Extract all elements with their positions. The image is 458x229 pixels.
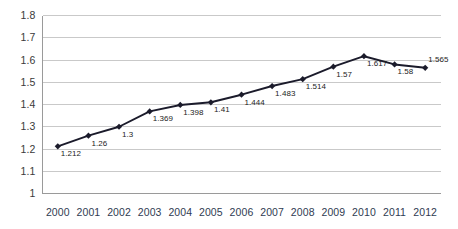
y-tick-label: 1.6: [21, 55, 36, 66]
data-point-marker: [300, 76, 306, 82]
data-point-marker: [330, 64, 336, 70]
data-point-label: 1.57: [336, 71, 352, 79]
data-point-label: 1.483: [275, 90, 295, 98]
chart-canvas: [0, 0, 458, 229]
y-tick-label: 1.4: [21, 99, 36, 110]
data-point-label: 1.617: [367, 60, 387, 68]
data-point-marker: [147, 108, 153, 114]
y-tick-label: 1.5: [21, 77, 36, 88]
data-point-label: 1.41: [214, 106, 230, 114]
data-point-label: 1.3: [122, 131, 133, 139]
y-tick-label: 1.8: [21, 10, 36, 21]
data-point-label: 1.58: [398, 68, 414, 76]
series-line: [58, 56, 425, 146]
data-point-label: 1.565: [428, 56, 448, 64]
data-point-marker: [238, 92, 244, 98]
data-point-marker: [116, 124, 122, 130]
x-tick-label: 2012: [405, 207, 445, 218]
gridlines: [43, 16, 441, 194]
data-point-label: 1.26: [91, 140, 107, 148]
y-tick-label: 1: [30, 188, 36, 199]
data-point-label: 1.444: [245, 99, 265, 107]
line-chart: 1.81.71.61.51.41.31.21.11 20002001200220…: [0, 0, 458, 229]
y-tick-label: 1.7: [21, 32, 36, 43]
y-tick-label: 1.3: [21, 121, 36, 132]
data-point-marker: [391, 61, 397, 67]
data-point-label: 1.212: [61, 150, 81, 158]
data-point-label: 1.514: [306, 83, 326, 91]
data-point-marker: [422, 65, 428, 71]
data-point-label: 1.369: [153, 115, 173, 123]
y-tick-label: 1.1: [21, 166, 36, 177]
data-point-label: 1.398: [183, 109, 203, 117]
y-tick-label: 1.2: [21, 144, 36, 155]
data-point-marker: [85, 133, 91, 139]
